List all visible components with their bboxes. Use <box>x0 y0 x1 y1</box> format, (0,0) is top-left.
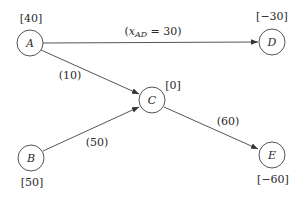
edge-c-e <box>164 107 258 149</box>
node-a-label: A <box>26 38 34 49</box>
edge-c-e-label: (60) <box>217 116 240 127</box>
edge-a-c-label: (10) <box>59 70 82 81</box>
node-b-label: B <box>27 153 35 164</box>
node-c-supply: [0] <box>165 80 181 91</box>
node-d-label: D <box>268 37 277 48</box>
node-b-supply: [50] <box>21 177 44 188</box>
edge-a-c <box>41 50 139 94</box>
edge-a-d <box>43 42 258 43</box>
network-flow-diagram: A B C D E [40] [50] [0] [−30] [−60] (xAD… <box>0 0 303 199</box>
edge-b-c-label: (50) <box>86 137 109 148</box>
node-d-supply: [−30] <box>256 11 288 22</box>
node-e-supply: [−60] <box>257 174 289 185</box>
node-a-supply: [40] <box>20 13 43 24</box>
node-c-label: C <box>148 95 156 106</box>
edge-a-d-label: (xAD = 30) <box>124 26 181 39</box>
node-e-label: E <box>268 150 276 161</box>
